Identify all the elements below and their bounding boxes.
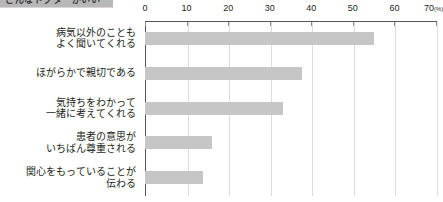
- category-label: 気持ちをわかって 一緒に考えてくれる: [0, 97, 140, 120]
- tick-mark: [353, 22, 354, 26]
- x-tick-label: 20: [223, 3, 233, 13]
- axis-unit-label: (%): [434, 6, 443, 12]
- tick-mark: [270, 22, 271, 26]
- x-tick-label: 60: [389, 3, 399, 13]
- gridline: [312, 22, 313, 196]
- x-tick-label: 30: [265, 3, 275, 13]
- x-tick-label: 40: [306, 3, 316, 13]
- tick-mark: [311, 22, 312, 26]
- horizontal-bar-chart: 010203040506070(%) 病気以外のことも よく聞いてくれるほがらか…: [0, 0, 443, 202]
- bar: [145, 171, 203, 184]
- tick-mark: [145, 22, 146, 26]
- category-label: 関心をもっていることが 伝わる: [0, 166, 140, 189]
- bar: [145, 102, 283, 115]
- x-tick-label: 0: [142, 3, 147, 13]
- x-tick-label: 10: [182, 3, 192, 13]
- category-label: 病気以外のことも よく聞いてくれる: [0, 27, 140, 50]
- tick-mark: [187, 22, 188, 26]
- tick-mark: [228, 22, 229, 26]
- gridline: [437, 22, 438, 196]
- category-label: ほがらかで親切である: [0, 67, 140, 79]
- bar: [145, 136, 212, 149]
- tick-mark: [394, 22, 395, 26]
- x-tick-label: 50: [348, 3, 358, 13]
- bar: [145, 32, 374, 45]
- gridline: [395, 22, 396, 196]
- x-tick-label: 70(%): [424, 3, 443, 13]
- tick-mark: [436, 22, 437, 26]
- gridline: [354, 22, 355, 196]
- bar: [145, 67, 302, 80]
- category-label: 患者の意思が いちばん尊重される: [0, 131, 140, 154]
